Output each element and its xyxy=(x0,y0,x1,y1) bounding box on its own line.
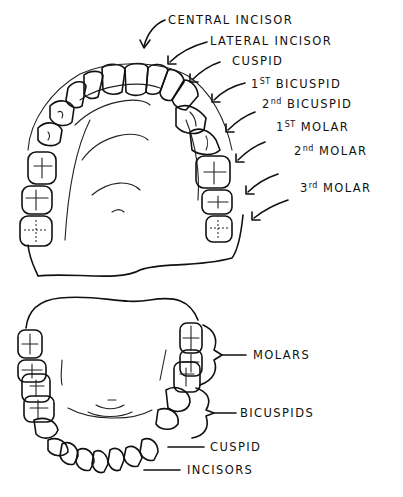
label-first-bicuspid: 1ST BICUSPID xyxy=(251,78,341,91)
label-cuspid: CUSPID xyxy=(232,56,283,68)
ordinal-suffix: rd xyxy=(309,181,318,190)
ordinal-number: 2 xyxy=(262,97,271,111)
ordinal-suffix: nd xyxy=(271,97,282,106)
upper-bicuspids xyxy=(38,101,220,155)
upper-incisors xyxy=(84,64,184,101)
label-lateral-incisor: LATERAL INCISOR xyxy=(210,36,332,48)
label-text: BICUSPID xyxy=(271,77,341,91)
label-second-molar: 2nd MOLAR xyxy=(294,145,367,158)
lower-cuspids-incisors xyxy=(60,439,158,473)
lower-molars xyxy=(18,323,202,422)
ordinal-number: 2 xyxy=(294,144,303,158)
ordinal-suffix: ST xyxy=(260,77,271,86)
upper-molars xyxy=(20,152,232,246)
ordinal-number: 1 xyxy=(251,77,260,91)
label-incisors: INCISORS xyxy=(187,465,253,477)
label-third-molar: 3rd MOLAR xyxy=(300,182,372,195)
ordinal-number: 3 xyxy=(300,181,309,195)
label-text: MOLAR xyxy=(314,144,368,158)
label-text: MOLAR xyxy=(296,120,350,134)
label-text: MOLAR xyxy=(318,181,372,195)
label-central-incisor: CENTRAL INCISOR xyxy=(168,15,293,27)
label-second-bicuspid: 2nd BICUSPID xyxy=(262,98,352,111)
label-molars: MOLARS xyxy=(253,350,310,362)
label-first-molar: 1ST MOLAR xyxy=(276,121,349,134)
upper-arch xyxy=(20,64,243,277)
label-bicuspids: BICUSPIDS xyxy=(240,408,314,420)
label-lower-cuspid: CUSPID xyxy=(210,442,261,454)
label-text: BICUSPID xyxy=(282,97,352,111)
dental-diagram: CENTRAL INCISOR LATERAL INCISOR CUSPID 1… xyxy=(0,0,403,497)
ordinal-number: 1 xyxy=(276,120,285,134)
tooth-drawings xyxy=(0,0,403,497)
ordinal-suffix: ST xyxy=(285,120,296,129)
ordinal-suffix: nd xyxy=(303,144,314,153)
lower-bicuspids xyxy=(34,388,190,456)
